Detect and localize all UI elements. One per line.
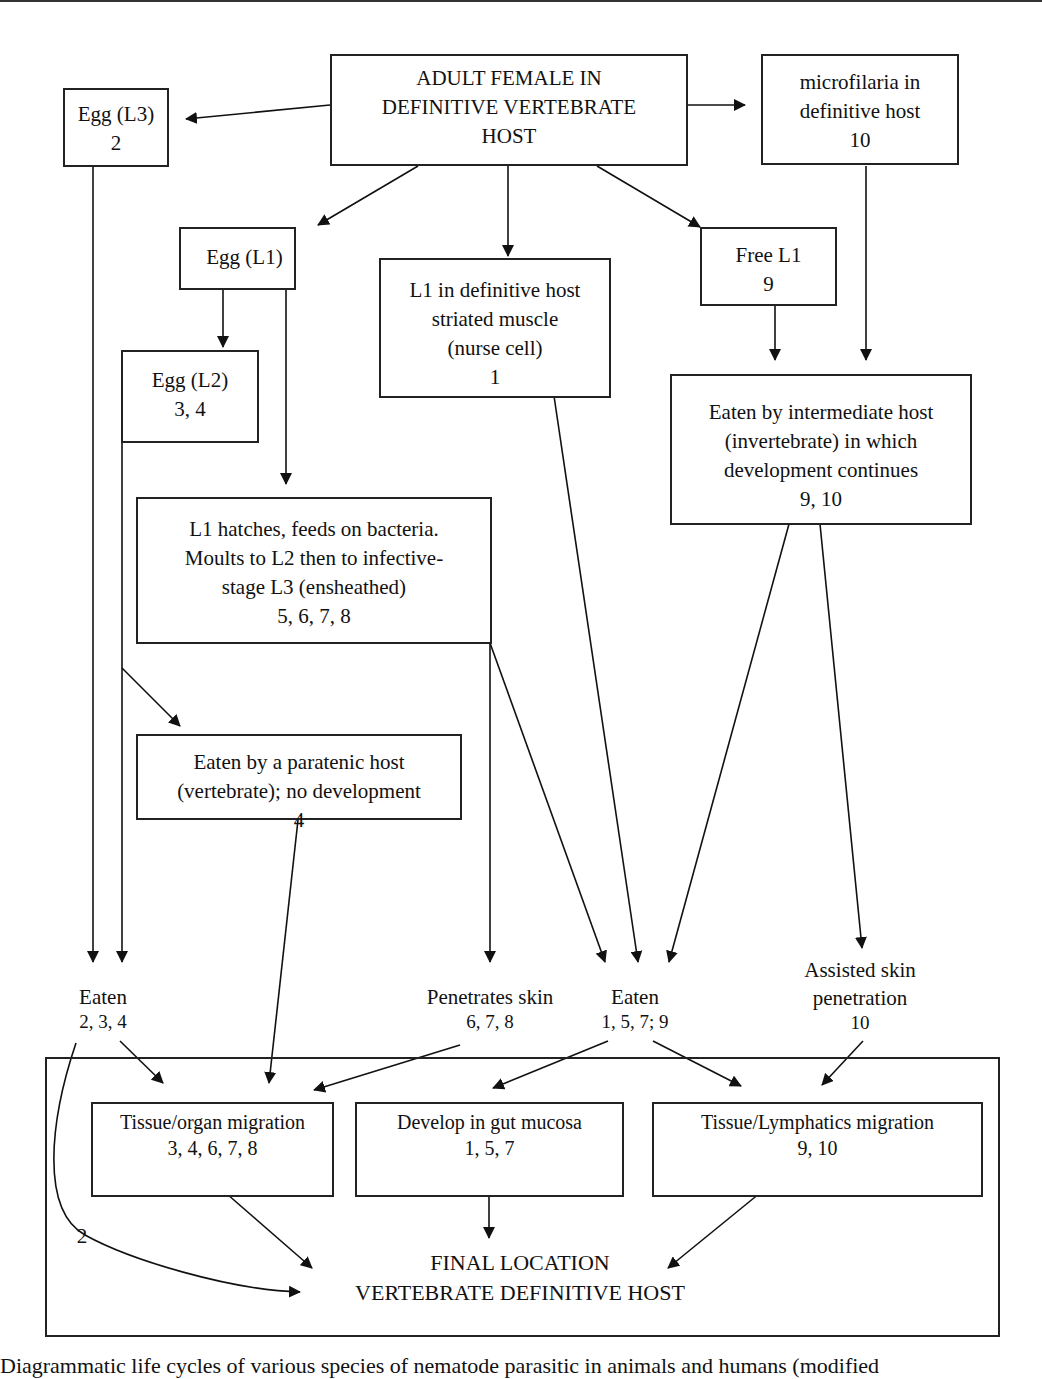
label-assisted-skin: Assisted skin penetration 10 bbox=[770, 956, 950, 1034]
arrow-intermediate-to-assisted-skin bbox=[820, 524, 862, 948]
node-egg-l3: Egg (L3) 2 bbox=[63, 88, 169, 167]
node-egg-l2: Egg (L2) 3, 4 bbox=[121, 350, 259, 443]
node-egg-l1: Egg (L1) bbox=[179, 227, 296, 290]
node-tissue-organ-migration: Tissue/organ migration 3, 4, 6, 7, 8 bbox=[91, 1102, 334, 1197]
arrow-l1-muscle-to-eaten-mid bbox=[554, 396, 638, 962]
node-l1-muscle: L1 in definitive host striated muscle (n… bbox=[379, 258, 611, 398]
node-intermediate-host: Eaten by intermediate host (invertebrate… bbox=[670, 374, 972, 525]
label-eaten-mid: Eaten 1, 5, 7; 9 bbox=[580, 983, 690, 1033]
node-tissue-lymphatics-migration: Tissue/Lymphatics migration 9, 10 bbox=[652, 1102, 983, 1197]
node-paratenic-host: Eaten by a paratenic host (vertebrate); … bbox=[136, 734, 462, 820]
node-microfilaria: microfilaria in definitive host 10 bbox=[761, 54, 959, 165]
node-adult-female: ADULT FEMALE IN DEFINITIVE VERTEBRATE HO… bbox=[330, 54, 688, 166]
label-eaten-left: Eaten 2, 3, 4 bbox=[48, 983, 158, 1033]
arrow-adult-to-egg-l1 bbox=[318, 166, 418, 225]
arrow-egg-l2-to-paratenic bbox=[122, 668, 180, 726]
edge-label-2: 2 bbox=[70, 1222, 94, 1250]
node-l1-hatches: L1 hatches, feeds on bacteria. Moults to… bbox=[136, 497, 492, 644]
arrow-paratenic-to-tissue-organ bbox=[269, 820, 298, 1083]
arrow-l1-hatches-to-eaten-mid bbox=[490, 643, 605, 962]
label-final-location: FINAL LOCATION VERTEBRATE DEFINITIVE HOS… bbox=[310, 1248, 730, 1308]
arrow-adult-to-egg-l3 bbox=[186, 105, 330, 119]
top-border-rule bbox=[0, 0, 1042, 2]
node-gut-mucosa: Develop in gut mucosa 1, 5, 7 bbox=[355, 1102, 624, 1197]
figure-caption: Diagrammatic life cycles of various spec… bbox=[0, 1353, 1042, 1379]
node-free-l1: Free L1 9 bbox=[700, 227, 837, 306]
arrow-intermediate-to-eaten-mid bbox=[669, 524, 789, 962]
arrow-adult-to-free-l1 bbox=[597, 166, 700, 227]
label-penetrates-skin: Penetrates skin 6, 7, 8 bbox=[390, 983, 590, 1033]
